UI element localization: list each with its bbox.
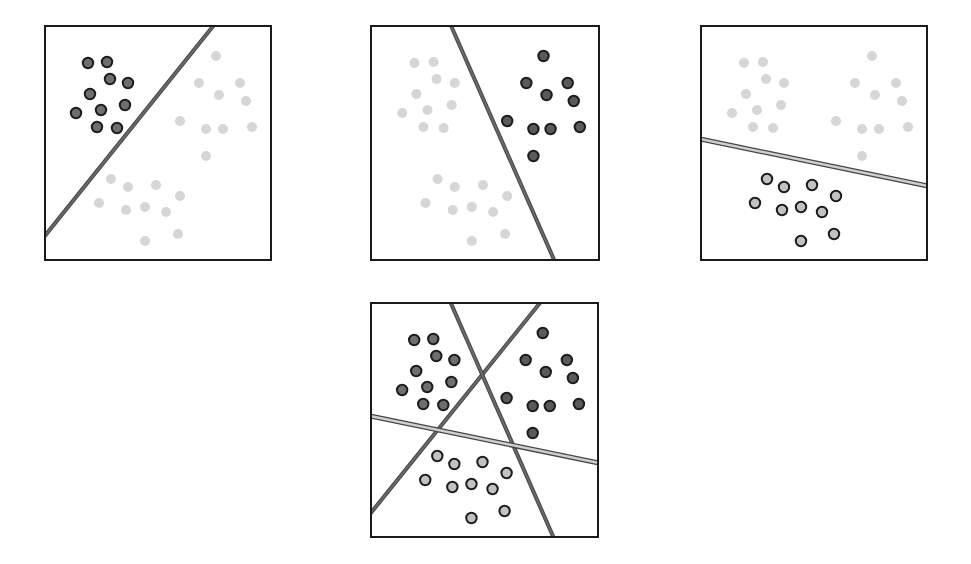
rest-point <box>761 74 771 84</box>
class-b-point <box>541 90 551 100</box>
class-a-point <box>449 355 459 365</box>
decision-boundary-c <box>700 139 928 186</box>
rest-point <box>727 108 737 118</box>
rest-point <box>768 123 778 133</box>
class-b-point <box>545 124 555 134</box>
class-a-point <box>418 399 428 409</box>
class-c-point <box>420 475 430 485</box>
rest-point <box>450 78 460 88</box>
class-c-point <box>750 198 760 208</box>
rest-point <box>500 229 510 239</box>
rest-point <box>758 57 768 67</box>
class-a-point <box>71 108 81 118</box>
panel-border <box>371 26 599 260</box>
rest-point <box>429 57 439 67</box>
class-b-point <box>568 373 578 383</box>
rest-point <box>247 122 257 132</box>
class-c-point <box>831 191 841 201</box>
panel-class-c-vs-rest: Class C vs rest <box>700 25 928 261</box>
rest-point <box>857 151 867 161</box>
rest-point <box>752 105 762 115</box>
class-a-point <box>422 382 432 392</box>
rest-point <box>502 191 512 201</box>
class-c-point <box>466 479 476 489</box>
class-c-point <box>501 468 511 478</box>
class-c-point <box>477 457 487 467</box>
class-a-point <box>120 100 130 110</box>
class-c-point <box>779 182 789 192</box>
rest-point <box>121 205 131 215</box>
class-a-point <box>83 58 93 68</box>
class-a-point <box>112 123 122 133</box>
class-b-point <box>575 122 585 132</box>
class-b-point <box>538 328 548 338</box>
rest-point <box>467 202 477 212</box>
rest-point <box>739 58 749 68</box>
class-c-point <box>807 180 817 190</box>
class-a-point <box>85 89 95 99</box>
rest-point <box>420 198 430 208</box>
class-a-point <box>409 335 419 345</box>
rest-point <box>897 96 907 106</box>
class-c-point <box>432 451 442 461</box>
rest-point <box>433 174 443 184</box>
class-b-point <box>541 367 551 377</box>
rest-point <box>867 51 877 61</box>
rest-point <box>106 174 116 184</box>
class-b-point <box>538 51 548 61</box>
class-a-point <box>102 57 112 67</box>
rest-point <box>478 180 488 190</box>
class-b-point <box>528 428 538 438</box>
class-b-point <box>520 355 530 365</box>
scatter-plot <box>44 25 272 261</box>
class-a-point <box>428 334 438 344</box>
class-a-point <box>123 78 133 88</box>
rest-point <box>140 202 150 212</box>
rest-point <box>123 182 133 192</box>
panel-class-b-vs-rest: Class B vs rest <box>370 25 600 261</box>
rest-point <box>194 78 204 88</box>
class-b-point <box>501 393 511 403</box>
rest-point <box>201 124 211 134</box>
class-a-point <box>397 385 407 395</box>
class-a-point <box>446 377 456 387</box>
rest-point <box>467 236 477 246</box>
class-b-point <box>574 399 584 409</box>
rest-point <box>173 229 183 239</box>
class-a-point <box>96 105 106 115</box>
class-c-point <box>487 484 497 494</box>
panel-border <box>371 303 598 537</box>
decision-boundary-a <box>44 25 214 237</box>
class-b-point <box>528 151 538 161</box>
rest-point <box>447 100 457 110</box>
rest-point <box>140 236 150 246</box>
rest-point <box>850 78 860 88</box>
panel-border <box>701 26 927 260</box>
panel-border <box>45 26 271 260</box>
rest-point <box>397 108 407 118</box>
decision-boundary-c <box>370 416 599 463</box>
class-b-point <box>545 401 555 411</box>
rest-point <box>201 151 211 161</box>
class-c-point <box>796 236 806 246</box>
decision-boundary-b <box>451 25 555 261</box>
class-b-point <box>528 401 538 411</box>
class-b-point <box>569 96 579 106</box>
rest-point <box>450 182 460 192</box>
rest-point <box>235 78 245 88</box>
rest-point <box>411 89 421 99</box>
rest-point <box>211 51 221 61</box>
rest-point <box>161 207 171 217</box>
rest-point <box>831 116 841 126</box>
rest-point <box>151 180 161 190</box>
rest-point <box>418 122 428 132</box>
class-b-point <box>528 124 538 134</box>
class-c-point <box>762 174 772 184</box>
rest-point <box>439 123 449 133</box>
rest-point <box>779 78 789 88</box>
class-c-point <box>449 459 459 469</box>
rest-point <box>488 207 498 217</box>
rest-point <box>448 205 458 215</box>
class-a-point <box>431 351 441 361</box>
rest-point <box>874 124 884 134</box>
